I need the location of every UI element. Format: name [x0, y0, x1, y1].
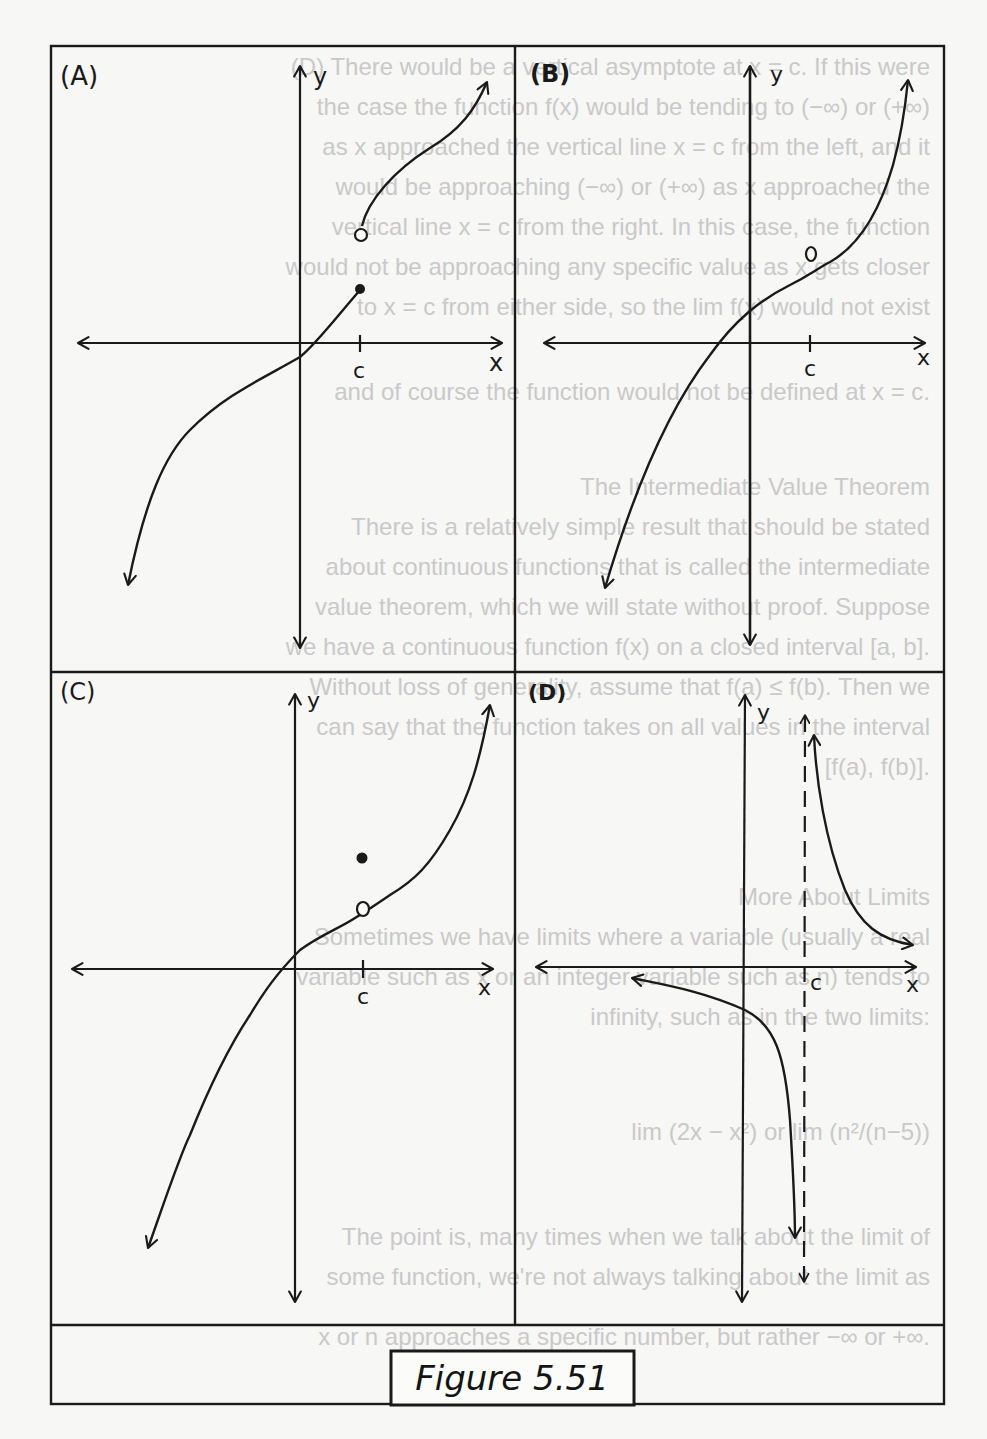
caption-box: Figure 5.51: [391, 1351, 634, 1405]
svg-text:(D) There would be a vertical: (D) There would be a vertical asymptote …: [291, 53, 930, 80]
closed-dot: [357, 853, 368, 864]
svg-text:Without loss of generality, as: Without loss of generality, assume that …: [309, 673, 930, 700]
svg-text:value theorem, which we will s: value theorem, which we will state witho…: [315, 593, 930, 620]
y-axis-label: y: [770, 62, 783, 87]
c-tick-label: c: [804, 356, 816, 381]
closed-dot: [355, 284, 365, 294]
c-tick-label: c: [357, 984, 369, 1009]
open-circle: [355, 229, 367, 241]
left-branch-curve: [128, 290, 360, 585]
x-axis-label: x: [478, 975, 491, 1000]
svg-text:and of course the function wou: and of course the function would not be …: [334, 378, 930, 405]
figure-caption: Figure 5.51: [415, 1358, 609, 1398]
y-axis-label: y: [307, 688, 320, 713]
svg-text:x or n approaches a specific n: x or n approaches a specific number, but…: [318, 1323, 930, 1350]
panel-c: (C) y x c: [60, 678, 493, 1302]
y-axis-label: y: [757, 700, 770, 725]
svg-text:about continuous functions tha: about continuous functions that is calle…: [326, 553, 930, 580]
svg-text:some function, we're not alway: some function, we're not always talking …: [326, 1263, 930, 1290]
open-circle: [806, 247, 816, 261]
x-axis-label: x: [906, 972, 919, 997]
c-tick-label: c: [353, 358, 365, 383]
c-tick-label: c: [810, 970, 822, 995]
svg-text:would not be approaching any s: would not be approaching any specific va…: [285, 253, 930, 280]
panel-label: (A): [60, 61, 98, 91]
svg-text:infinity, such as in the two l: infinity, such as in the two limits:: [590, 1003, 930, 1030]
bleed-through-text: (D) There would be a vertical asymptote …: [285, 53, 931, 1350]
panel-label: (B): [530, 60, 570, 88]
svg-text:The Intermediate Value Theorem: The Intermediate Value Theorem: [580, 473, 930, 500]
svg-text:vertical line x = c from the r: vertical line x = c from the right. In t…: [332, 213, 930, 240]
x-axis-label: x: [917, 345, 930, 370]
x-axis-label: x: [489, 349, 503, 377]
svg-text:Sometimes we have limits where: Sometimes we have limits where a variabl…: [314, 923, 930, 950]
svg-text:The point is, many times when: The point is, many times when we talk ab…: [342, 1223, 931, 1250]
svg-text:the case the function f(x) wou: the case the function f(x) would be tend…: [317, 93, 930, 120]
svg-text:we have a continuous function: we have a continuous function f(x) on a …: [285, 633, 930, 660]
figure-5-51: (D) There would be a vertical asymptote …: [0, 0, 987, 1439]
svg-text:There is a relatively simple r: There is a relatively simple result that…: [351, 513, 930, 540]
svg-text:lim (2x − x²) or lim: lim (2x − x²) or lim (n²/(n−5)): [631, 1118, 930, 1145]
y-axis-label: y: [313, 63, 327, 91]
open-circle: [357, 902, 369, 916]
y-axis: [742, 695, 745, 1302]
svg-text:[f(a), f(b)].: [f(a), f(b)].: [825, 753, 930, 780]
svg-text:More About Limits: More About Limits: [738, 883, 930, 910]
svg-text:as x approached the vertical l: as x approached the vertical line x = c …: [322, 133, 930, 160]
svg-text:can say that the function take: can say that the function takes on all v…: [316, 713, 930, 740]
svg-text:would be approaching (−∞) or (: would be approaching (−∞) or (+∞) as x a…: [334, 173, 930, 200]
svg-text:to x = c from either side, so: to x = c from either side, so the lim f(…: [357, 293, 930, 320]
vertical-asymptote-line: [804, 715, 805, 1282]
panel-label: (D): [528, 680, 566, 705]
panel-label: (C): [60, 678, 95, 706]
